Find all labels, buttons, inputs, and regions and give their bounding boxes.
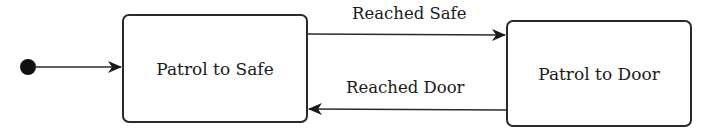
state-label: Patrol to Door [538, 64, 660, 84]
state-patrol-to-safe: Patrol to Safe [122, 14, 308, 123]
reached-door-arrow [309, 109, 506, 110]
transition-label-reached-door: Reached Door [346, 78, 464, 97]
state-patrol-to-door: Patrol to Door [506, 20, 692, 127]
initial-state-dot [20, 59, 36, 75]
state-label: Patrol to Safe [156, 59, 273, 79]
reached-safe-arrow [308, 34, 505, 35]
transition-label-reached-safe: Reached Safe [352, 4, 466, 23]
